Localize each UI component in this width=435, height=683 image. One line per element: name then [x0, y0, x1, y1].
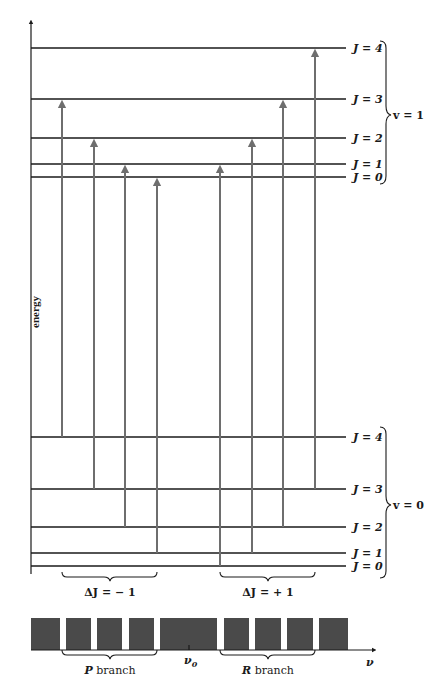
spectrum — [31, 618, 374, 650]
spectrum-bar — [287, 618, 313, 650]
delta-j-minus-label: ΔJ = − 1 — [84, 586, 135, 599]
label-v1-j0: J = 0 — [351, 171, 383, 184]
energy-level-diagram: energy J = 4 J = 3 J = 2 J = 1 J = 0 v =… — [0, 0, 435, 683]
spectrum-bar — [66, 618, 91, 650]
nu0-label: ν0 — [184, 654, 198, 669]
label-v1-j3: J = 3 — [351, 93, 383, 106]
label-v0-j2: J = 2 — [351, 521, 383, 534]
lower-levels — [31, 437, 346, 566]
p-branch-label: P branch — [84, 664, 136, 677]
label-v0-j1: J = 1 — [351, 547, 383, 560]
label-v0: v = 0 — [392, 499, 424, 512]
spectrum-bar — [319, 618, 348, 650]
delta-j-plus-label: ΔJ = + 1 — [242, 586, 293, 599]
label-v1: v = 1 — [392, 109, 424, 122]
brace-delta-j-minus — [62, 572, 157, 581]
label-v1-j2: J = 2 — [351, 132, 383, 145]
frequency-axis-label: ν — [366, 656, 374, 669]
label-v0-j4: J = 4 — [351, 431, 383, 444]
energy-axis-label: energy — [29, 296, 41, 328]
spectrum-bar — [129, 618, 154, 650]
spectrum-bar — [31, 618, 60, 650]
upper-levels — [31, 48, 346, 177]
lower-level-labels: J = 4 J = 3 J = 2 J = 1 J = 0 — [351, 431, 383, 573]
brace-p-branch — [62, 650, 157, 659]
label-v1-j4: J = 4 — [351, 42, 383, 55]
brace-delta-j-plus — [220, 572, 315, 581]
r-branch-label: R branch — [241, 664, 294, 677]
label-v0-j3: J = 3 — [351, 483, 383, 496]
spectrum-bar — [224, 618, 249, 650]
label-v1-j1: J = 1 — [351, 158, 383, 171]
spectrum-bar — [97, 618, 122, 650]
upper-level-labels: J = 4 J = 3 J = 2 J = 1 J = 0 — [351, 42, 383, 184]
spectrum-bar — [255, 618, 281, 650]
label-v0-j0: J = 0 — [351, 560, 383, 573]
p-branch-transitions — [62, 104, 157, 553]
brace-r-branch — [220, 650, 315, 659]
